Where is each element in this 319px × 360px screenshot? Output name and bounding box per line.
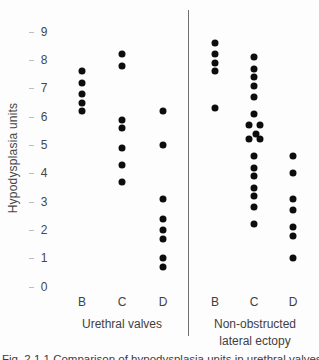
data-point [251,110,258,117]
data-point [119,51,126,58]
data-point [79,99,86,106]
data-point [160,227,167,234]
data-point [212,59,219,66]
data-point [160,215,167,222]
data-point [251,184,258,191]
data-point [160,235,167,242]
data-point [251,153,258,160]
data-point [119,62,126,69]
group-label-line: lateral ectopy [219,334,290,348]
y-tick-mark [29,258,34,259]
y-axis-title: Hypodysplasia units [6,103,20,214]
data-point [251,65,258,72]
data-point [290,224,297,231]
data-point [290,153,297,160]
y-tick-label: 5 [41,138,48,152]
group-label-line: Urethral valves [82,317,162,331]
data-point [290,232,297,239]
data-point [251,193,258,200]
data-point [212,51,219,58]
data-point [245,122,252,129]
group-label-line: Non-obstructed [214,317,296,331]
y-tick-mark [29,202,34,203]
y-tick-label: 3 [41,195,48,209]
data-point [119,125,126,132]
y-tick-mark [29,173,34,174]
data-point [256,136,263,143]
data-point [212,40,219,47]
y-tick-label: 7 [41,81,48,95]
data-point [119,161,126,168]
data-point [119,144,126,151]
y-tick-mark [29,60,34,61]
data-point [290,255,297,262]
data-point [119,178,126,185]
data-point [160,255,167,262]
data-point [251,221,258,228]
data-point [79,79,86,86]
column-label: D [289,295,298,309]
data-point [119,116,126,123]
dot-plot-figure: Hypodysplasia units 9876543210 BCDBCD Ur… [0,0,319,360]
data-point [251,173,258,180]
y-tick-mark [29,88,34,89]
data-point [79,91,86,98]
column-label: D [159,295,168,309]
data-point [251,204,258,211]
data-point [160,142,167,149]
data-point [251,82,258,89]
y-tick-mark [29,145,34,146]
y-tick-label: 8 [41,53,48,67]
column-label: C [250,295,259,309]
data-point [290,170,297,177]
column-label: C [118,295,127,309]
data-point [160,108,167,115]
group-divider-line [188,10,189,336]
y-tick-mark [29,230,34,231]
y-tick-mark [29,287,34,288]
data-point [79,108,86,115]
column-label: B [211,295,219,309]
data-point [245,136,252,143]
y-tick-label: 2 [41,223,48,237]
y-tick-label: 4 [41,166,48,180]
data-point [160,263,167,270]
data-point [290,195,297,202]
data-point [256,122,263,129]
y-tick-mark [29,117,34,118]
data-point [212,105,219,112]
data-point [79,68,86,75]
y-tick-label: 0 [41,280,48,294]
data-point [251,93,258,100]
data-point [251,54,258,61]
data-point [212,68,219,75]
column-label: B [78,295,86,309]
caption-fragment: Fig. 2.1.1 Comparison of hypodysplasia u… [2,353,319,360]
data-point [251,164,258,171]
data-point [290,207,297,214]
y-tick-label: 1 [41,251,48,265]
data-point [160,195,167,202]
y-tick-mark [29,32,34,33]
y-tick-label: 6 [41,110,48,124]
y-tick-label: 9 [41,25,48,39]
data-point [251,74,258,81]
